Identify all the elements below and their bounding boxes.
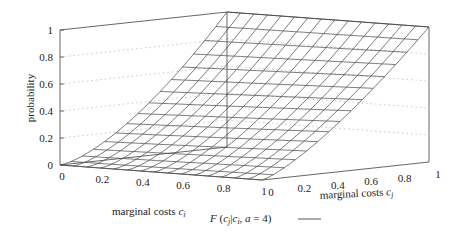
mesh-line-ci [87, 14, 254, 167]
mesh-line-ci [262, 27, 429, 180]
x-tick-label: 0.4 [136, 176, 150, 188]
mesh-line-cj [183, 67, 385, 77]
z-gridline [60, 66, 227, 84]
mesh-line-cj [227, 12, 429, 27]
mesh-line-cj [194, 54, 396, 65]
mesh-line-cj [160, 92, 362, 100]
surface-mesh [60, 12, 429, 180]
z-tick-label: 0.6 [39, 78, 53, 90]
z-tick-label: 1 [48, 24, 54, 36]
legend-label: F (cj|ci, a = 4) [209, 212, 272, 226]
y-tick-label: 1 [435, 168, 441, 180]
y-tick-label: 0.8 [398, 172, 412, 184]
mesh-line-cj [127, 124, 329, 132]
y-tick-label: 0.2 [298, 182, 312, 194]
x-tick-label: 1 [261, 185, 267, 197]
box-edge [60, 12, 227, 30]
mesh-line-ci [249, 26, 416, 179]
z-tick-label: 0 [48, 159, 54, 171]
mesh-line-cj [116, 133, 318, 142]
z-tick-label: 0.2 [39, 132, 53, 144]
mesh-line-ci [60, 12, 227, 165]
mesh-line-cj [138, 114, 340, 122]
x-tick-label: 0.6 [176, 179, 190, 191]
x-tick-label: 0.8 [217, 182, 231, 194]
x-tick-label: 0 [59, 170, 65, 182]
z-axis-label: probability [24, 73, 36, 122]
x-axis-label: marginal costs ci [112, 205, 186, 219]
z-gridline [227, 66, 429, 81]
mesh-line-ci [100, 15, 267, 168]
x-tick-label: 0.2 [96, 173, 110, 185]
mesh-line-ci [74, 13, 241, 166]
surface-chart: 00.20.40.60.8100.20.40.60.8100.20.40.60.… [0, 0, 459, 239]
z-gridlines [60, 39, 429, 138]
z-tick-label: 0.4 [39, 105, 53, 117]
y-axis-label: marginal costs cj [319, 185, 394, 203]
mesh-line-cj [216, 27, 418, 40]
legend: F (cj|ci, a = 4) [209, 212, 321, 226]
mesh-line-cj [171, 80, 373, 89]
mesh-line-cj [149, 103, 351, 111]
axis-box-back [60, 12, 429, 147]
z-gridline [60, 120, 227, 138]
y-tick-label: 0 [268, 186, 274, 198]
z-tick-label: 0.8 [39, 51, 53, 63]
mesh-line-cj [205, 41, 407, 53]
